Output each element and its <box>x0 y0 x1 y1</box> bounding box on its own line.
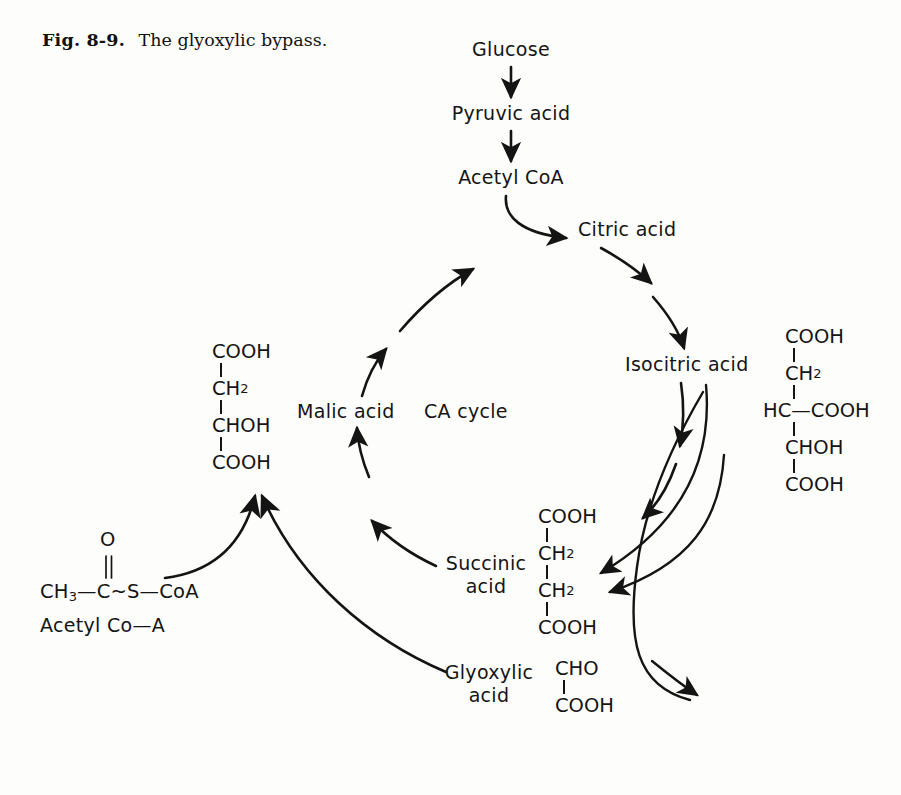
isocitric-acid-bond-2 <box>785 422 870 436</box>
arrow-malic-to-cycle-2 <box>362 349 386 396</box>
node-citric-acid: Citric acid <box>578 218 676 241</box>
node-glyoxylic-acid: Glyoxylic acid <box>445 661 533 707</box>
node-acetyl-coa: Acetyl CoA <box>458 166 564 189</box>
node-succinic-acid-line1: Succinic <box>446 552 526 575</box>
glyoxylic-acid-structure: CHO COOH <box>555 657 614 717</box>
node-isocitric-acid: Isocitric acid <box>625 353 749 376</box>
malic-acid-bond-1 <box>212 400 271 414</box>
arrow-succinic-to-malic <box>372 521 436 566</box>
node-pyruvic-acid: Pyruvic acid <box>452 102 571 125</box>
arrow-citric-to-isocitric-2 <box>653 297 684 348</box>
node-succinic-acid-line2: acid <box>446 575 526 598</box>
malic-acid-row-0: COOH <box>212 340 271 363</box>
arrow-glyoxylic-to-malic <box>262 496 446 672</box>
arrow-cycle-upper-left <box>400 269 473 331</box>
isocitric-acid-bond-3 <box>785 459 870 473</box>
figure-caption-text: The glyoxylic bypass. <box>131 30 328 50</box>
arrow-malic-to-cycle-1 <box>357 428 369 477</box>
curve-glyoxylic-to-isocitric <box>633 392 703 700</box>
arrow-isocitric-to-succinic-2 <box>643 464 676 518</box>
acetyl-coa-oxygen: O <box>100 528 116 551</box>
arrow-citric-to-isocitric-1 <box>601 248 651 283</box>
succinic-acid-row-0: COOH <box>538 505 597 528</box>
isocitric-acid-row-4: COOH <box>785 473 844 496</box>
node-glyoxylic-acid-line1: Glyoxylic <box>445 661 533 684</box>
succinic-acid-bond-2 <box>538 602 597 616</box>
malic-acid-bond-2 <box>212 437 271 451</box>
arrow-isocitric-to-succinic-ch2 <box>610 455 724 592</box>
figure-page: Fig. 8-9. The glyoxylic bypass. Glucose … <box>0 0 901 795</box>
succinic-acid-row-2: CH2 <box>538 579 575 602</box>
arrow-acetylcoa-to-malic <box>165 496 255 578</box>
isocitric-acid-structure: COOH CH2 HC—COOH CHOH COOH <box>785 325 870 496</box>
isocitric-acid-row-3: CHOH <box>785 436 843 459</box>
cycle-center-label: CA cycle <box>424 400 508 423</box>
malic-acid-row-1: CH2 <box>212 377 249 400</box>
isocitric-acid-bond-0 <box>785 348 870 362</box>
figure-caption-label: Fig. 8-9. <box>42 30 125 50</box>
malic-acid-row-3: COOH <box>212 451 271 474</box>
isocitric-acid-bond-1 <box>785 385 870 399</box>
arrow-acetylcoa-to-citric <box>506 196 566 238</box>
node-glyoxylic-acid-line2: acid <box>445 684 533 707</box>
isocitric-acid-row-0: COOH <box>785 325 844 348</box>
glyoxylic-acid-row-1: COOH <box>555 694 614 717</box>
figure-caption: Fig. 8-9. The glyoxylic bypass. <box>42 30 327 50</box>
isocitric-acid-row-1: CH2 <box>785 362 822 385</box>
node-malic-acid: Malic acid <box>297 400 395 423</box>
arrow-isocitric-to-succinic-1 <box>680 383 683 446</box>
acetyl-coa-formula: CH3—C~S—CoA <box>40 580 199 604</box>
node-glucose: Glucose <box>472 38 550 61</box>
acetyl-coa-caption: Acetyl Co—A <box>40 614 165 637</box>
node-succinic-acid: Succinic acid <box>446 552 526 598</box>
succinic-acid-row-1: CH2 <box>538 542 575 565</box>
glyoxylic-acid-bond-0 <box>555 680 614 694</box>
glyoxylic-acid-row-0: CHO <box>555 657 599 680</box>
malic-acid-structure: COOH CH2 CHOH COOH <box>212 340 271 474</box>
isocitric-acid-row-2: HC—COOH <box>763 399 870 422</box>
malic-acid-row-2: CHOH <box>212 414 270 437</box>
succinic-acid-bond-1 <box>538 565 597 579</box>
succinic-acid-row-3: COOH <box>538 616 597 639</box>
succinic-acid-structure: COOH CH2 CH2 COOH <box>538 505 597 639</box>
malic-acid-bond-0 <box>212 363 271 377</box>
arrow-into-glyoxylic-cho <box>652 661 697 695</box>
succinic-acid-bond-0 <box>538 528 597 542</box>
